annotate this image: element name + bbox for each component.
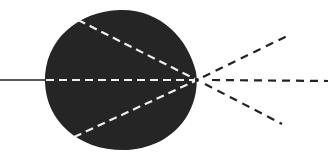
external-ray-upper bbox=[203, 36, 287, 77]
external-dashed-rays bbox=[203, 36, 328, 124]
focal-point bbox=[195, 78, 199, 82]
ray-diagram bbox=[0, 0, 328, 152]
dark-sphere bbox=[45, 10, 197, 150]
external-ray-middle bbox=[212, 80, 328, 81]
external-ray-lower bbox=[205, 84, 282, 124]
